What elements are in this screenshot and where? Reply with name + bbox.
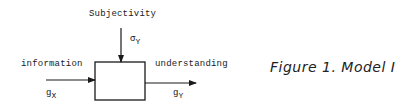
information-label: information [21,59,83,69]
figure-caption: Figure 1. Model I [270,59,395,75]
g-x-symbol: gX [46,88,56,100]
subjectivity-label: Subjectivity [89,9,156,19]
sigma-y-symbol: σY [130,34,140,46]
block-diagram [0,0,415,111]
g-y-symbol: gY [173,88,183,100]
model-block [95,62,145,100]
understanding-label: understanding [155,59,228,69]
